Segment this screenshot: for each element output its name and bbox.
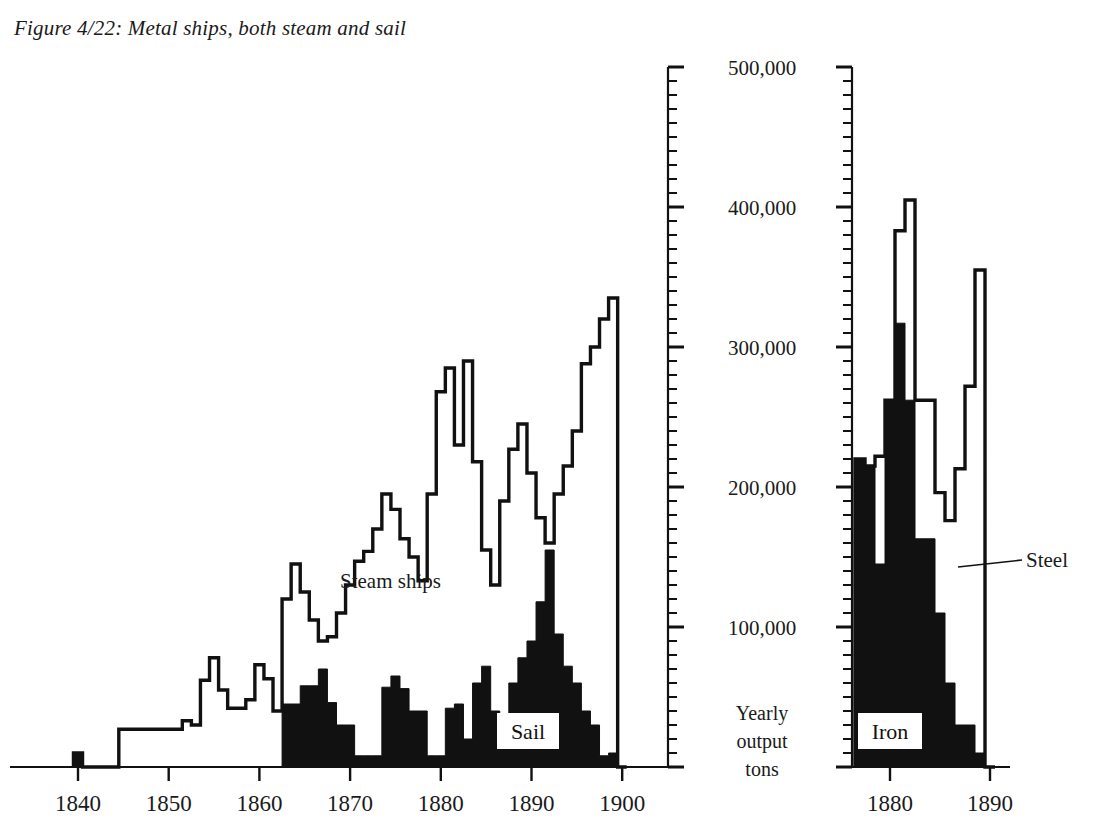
x-tick-label: 1880 xyxy=(418,791,464,816)
left-chart-y-axis xyxy=(668,67,684,767)
left-chart-x-tick-labels: 1840185018601870188018901900 xyxy=(55,791,645,816)
right-chart-x-tick-labels: 18801890 xyxy=(867,791,1013,816)
y-axis-label: 400,000 xyxy=(728,196,796,220)
y-axis-caption-line: Yearly xyxy=(736,702,788,725)
x-tick-label: 1880 xyxy=(867,791,913,816)
y-axis-caption-line: output xyxy=(736,730,788,753)
steel-label: Steel xyxy=(1026,548,1068,572)
right-chart-y-axis xyxy=(836,67,852,767)
y-axis-caption: Yearlyoutputtons xyxy=(736,702,788,780)
x-tick-label: 1890 xyxy=(967,791,1013,816)
x-tick-label: 1840 xyxy=(55,791,101,816)
series-iron xyxy=(855,323,995,767)
y-axis-label: 500,000 xyxy=(728,56,796,80)
y-axis-label: 200,000 xyxy=(728,476,796,500)
y-axis-value-labels: 500,000400,000300,000200,000100,000 xyxy=(728,56,796,640)
x-tick-label: 1860 xyxy=(236,791,282,816)
y-axis-caption-line: tons xyxy=(745,758,779,780)
x-tick-label: 1870 xyxy=(327,791,373,816)
sail-label: Sail xyxy=(511,719,545,744)
right-chart-x-axis xyxy=(840,767,1010,781)
iron-label: Iron xyxy=(872,719,909,744)
x-tick-label: 1850 xyxy=(146,791,192,816)
y-axis-label: 100,000 xyxy=(728,616,796,640)
y-axis-label: 300,000 xyxy=(728,336,796,360)
left-chart: 1840185018601870188018901900 xyxy=(10,67,684,816)
x-tick-label: 1900 xyxy=(599,791,645,816)
right-chart-iron-area xyxy=(855,323,995,767)
steam-ships-label: Steam ships xyxy=(340,569,441,593)
steel-leader-line xyxy=(958,560,1022,567)
figure-chart-canvas: 1840185018601870188018901900 500,000400,… xyxy=(0,0,1094,825)
right-chart: 18801890 xyxy=(836,67,1013,816)
x-tick-label: 1890 xyxy=(509,791,555,816)
left-chart-x-axis xyxy=(10,767,676,781)
